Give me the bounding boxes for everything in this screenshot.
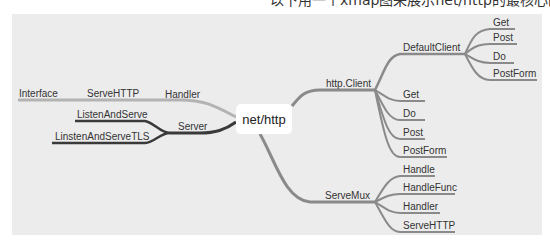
node-defaultclient-do[interactable]: Do: [493, 51, 506, 63]
node-servehttp-handler[interactable]: ServeHTTP: [87, 88, 139, 100]
node-defaultclient-get[interactable]: Get: [493, 17, 509, 29]
node-client-get[interactable]: Get: [403, 89, 419, 101]
node-listenandserve[interactable]: ListenAndServe: [77, 109, 148, 121]
node-defaultclient-post[interactable]: Post: [493, 32, 513, 44]
node-servemux-handler[interactable]: Handler: [403, 201, 438, 213]
node-servemux-handle[interactable]: Handle: [403, 164, 435, 176]
node-server[interactable]: Server: [178, 121, 207, 133]
node-defaultclient-postform[interactable]: PostForm: [493, 68, 536, 80]
node-servemux-servehttp[interactable]: ServeHTTP: [403, 220, 455, 232]
node-client-postform[interactable]: PostForm: [403, 145, 446, 157]
node-defaultclient[interactable]: DefaultClient: [403, 42, 460, 54]
node-client-post[interactable]: Post: [403, 127, 423, 139]
node-linstenandservetls[interactable]: LinstenAndServeTLS: [55, 131, 150, 143]
node-servemux[interactable]: ServeMux: [325, 190, 370, 202]
node-client-do[interactable]: Do: [403, 108, 416, 120]
root-node-net-http[interactable]: net/http: [236, 104, 292, 134]
node-interface[interactable]: Interface: [19, 88, 58, 100]
node-http-client[interactable]: http.Client: [326, 78, 371, 90]
node-servemux-handlefunc[interactable]: HandleFunc: [403, 182, 457, 194]
node-handler[interactable]: Handler: [165, 89, 200, 101]
